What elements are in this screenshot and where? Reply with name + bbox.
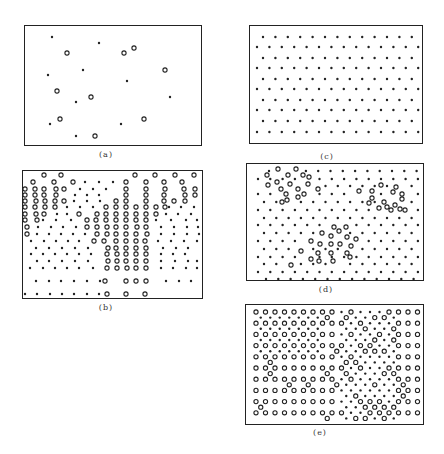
panel-b-points	[23, 171, 204, 300]
open-circle-marker	[392, 327, 396, 331]
filled-dot-marker	[364, 361, 366, 363]
filled-dot-marker	[75, 101, 77, 103]
filled-dot-marker	[75, 135, 77, 137]
filled-dot-marker	[281, 256, 283, 258]
filled-dot-marker	[361, 232, 363, 234]
filled-dot-marker	[170, 219, 172, 221]
filled-dot-marker	[339, 278, 341, 280]
open-circle-marker	[401, 383, 405, 387]
open-circle-marker	[320, 388, 324, 392]
panel-a-label: (a)	[99, 150, 113, 159]
open-circle-marker	[144, 193, 148, 197]
filled-dot-marker	[155, 219, 157, 221]
filled-dot-marker	[180, 206, 182, 208]
filled-dot-marker	[186, 226, 188, 228]
filled-dot-marker	[92, 206, 94, 208]
open-circle-marker	[406, 332, 410, 336]
open-circle-marker	[144, 212, 148, 216]
open-circle-marker	[311, 332, 315, 336]
filled-dot-marker	[330, 109, 332, 111]
open-circle-marker	[358, 321, 362, 325]
open-circle-marker	[65, 51, 69, 55]
open-circle-marker	[296, 195, 300, 199]
filled-dot-marker	[298, 316, 300, 318]
open-circle-marker	[282, 321, 286, 325]
filled-dot-marker	[405, 109, 407, 111]
open-circle-marker	[396, 355, 400, 359]
filled-dot-marker	[79, 188, 81, 190]
open-circle-marker	[287, 383, 291, 387]
filled-dot-marker	[345, 417, 347, 419]
filled-dot-marker	[314, 278, 316, 280]
open-circle-marker	[93, 134, 97, 138]
filled-dot-marker	[378, 378, 380, 380]
filled-dot-marker	[340, 356, 342, 358]
filled-dot-marker	[48, 247, 50, 249]
filled-dot-marker	[300, 217, 302, 219]
filled-dot-marker	[178, 280, 180, 282]
open-circle-marker	[273, 388, 277, 392]
filled-dot-marker	[279, 328, 281, 330]
open-circle-marker	[392, 338, 396, 342]
filled-dot-marker	[345, 339, 347, 341]
filled-dot-marker	[293, 67, 295, 69]
filled-dot-marker	[281, 240, 283, 242]
open-circle-marker	[329, 242, 333, 246]
open-circle-marker	[377, 332, 381, 336]
filled-dot-marker	[84, 181, 86, 183]
filled-dot-marker	[72, 233, 74, 235]
filled-dot-marker	[340, 311, 342, 313]
filled-dot-marker	[361, 185, 363, 187]
open-circle-marker	[263, 321, 267, 325]
open-circle-marker	[344, 225, 348, 229]
open-circle-marker	[349, 310, 353, 314]
filled-dot-marker	[263, 263, 265, 265]
filled-dot-marker	[388, 333, 390, 335]
open-circle-marker	[144, 266, 148, 270]
filled-dot-marker	[318, 109, 320, 111]
open-circle-marker	[114, 239, 118, 243]
filled-dot-marker	[380, 224, 382, 226]
open-circle-marker	[31, 180, 35, 184]
open-circle-marker	[311, 355, 315, 359]
open-circle-marker	[400, 192, 404, 196]
open-circle-marker	[330, 310, 334, 314]
open-circle-marker	[55, 89, 59, 93]
filled-dot-marker	[306, 209, 308, 211]
open-circle-marker	[292, 366, 296, 370]
filled-dot-marker	[279, 316, 281, 318]
filled-dot-marker	[398, 78, 400, 80]
filled-dot-marker	[262, 57, 264, 59]
filled-dot-marker	[369, 333, 371, 335]
filled-dot-marker	[318, 178, 320, 180]
open-circle-marker	[115, 266, 119, 270]
open-circle-marker	[301, 332, 305, 336]
open-circle-marker	[330, 344, 334, 348]
filled-dot-marker	[405, 88, 407, 90]
filled-dot-marker	[340, 378, 342, 380]
filled-dot-marker	[417, 88, 419, 90]
filled-dot-marker	[174, 260, 176, 262]
filled-dot-marker	[294, 240, 296, 242]
filled-dot-marker	[263, 217, 265, 219]
open-circle-marker	[52, 180, 56, 184]
open-circle-marker	[143, 239, 147, 243]
filled-dot-marker	[299, 120, 301, 122]
filled-dot-marker	[386, 263, 388, 265]
filled-dot-marker	[311, 120, 313, 122]
filled-dot-marker	[87, 260, 89, 262]
filled-dot-marker	[355, 384, 357, 386]
filled-dot-marker	[410, 248, 412, 250]
filled-dot-marker	[361, 120, 363, 122]
filled-dot-marker	[373, 120, 375, 122]
filled-dot-marker	[173, 226, 175, 228]
filled-dot-marker	[281, 88, 283, 90]
filled-dot-marker	[61, 260, 63, 262]
filled-dot-marker	[336, 36, 338, 38]
filled-dot-marker	[306, 271, 308, 273]
filled-dot-marker	[412, 278, 414, 280]
open-circle-marker	[301, 310, 305, 314]
open-circle-marker	[154, 212, 158, 216]
filled-dot-marker	[186, 233, 188, 235]
filled-dot-marker	[379, 170, 381, 172]
